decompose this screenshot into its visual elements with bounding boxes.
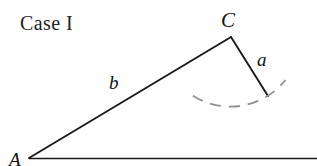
side-b-segment: [29, 37, 231, 158]
vertex-a-label: A: [9, 150, 21, 166]
figure-root: Case I C A a b: [0, 0, 317, 166]
side-b-label: b: [109, 73, 119, 92]
side-a-label: a: [257, 50, 267, 69]
case-title-label: Case I: [20, 13, 73, 33]
swing-arc: [193, 80, 286, 107]
vertex-c-label: C: [221, 10, 235, 31]
